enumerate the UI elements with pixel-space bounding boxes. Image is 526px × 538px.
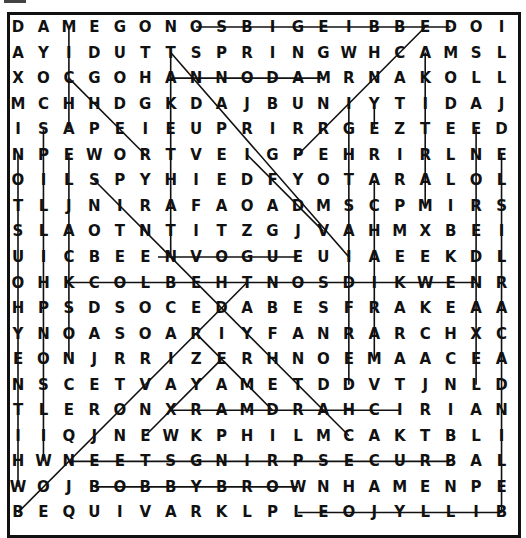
grid-letter[interactable]: Y bbox=[5, 321, 31, 347]
grid-letter[interactable]: P bbox=[209, 116, 235, 142]
grid-letter[interactable]: I bbox=[260, 14, 286, 40]
grid-letter[interactable]: N bbox=[438, 474, 464, 500]
grid-letter[interactable]: V bbox=[310, 218, 336, 244]
grid-letter[interactable]: S bbox=[310, 448, 336, 474]
grid-letter[interactable]: R bbox=[132, 193, 158, 219]
grid-letter[interactable]: Y bbox=[387, 499, 413, 525]
grid-letter[interactable]: O bbox=[107, 474, 133, 500]
grid-letter[interactable]: Q bbox=[56, 423, 82, 449]
grid-letter[interactable]: B bbox=[260, 295, 286, 321]
grid-letter[interactable]: M bbox=[438, 40, 464, 66]
grid-letter[interactable]: E bbox=[158, 116, 184, 142]
grid-letter[interactable]: R bbox=[387, 167, 413, 193]
grid-letter[interactable]: N bbox=[132, 218, 158, 244]
grid-letter[interactable]: R bbox=[107, 346, 133, 372]
grid-letter[interactable]: U bbox=[285, 91, 311, 117]
grid-letter[interactable]: L bbox=[489, 244, 515, 270]
grid-letter[interactable]: L bbox=[234, 499, 260, 525]
grid-letter[interactable]: R bbox=[234, 474, 260, 500]
grid-letter[interactable]: O bbox=[107, 397, 133, 423]
grid-letter[interactable]: T bbox=[209, 218, 235, 244]
grid-letter[interactable]: G bbox=[132, 91, 158, 117]
grid-letter[interactable]: Z bbox=[234, 218, 260, 244]
grid-letter[interactable]: E bbox=[209, 142, 235, 168]
grid-letter[interactable]: U bbox=[183, 116, 209, 142]
grid-letter[interactable]: T bbox=[5, 193, 31, 219]
grid-letter[interactable]: G bbox=[285, 14, 311, 40]
grid-letter[interactable]: R bbox=[234, 346, 260, 372]
grid-letter[interactable]: D bbox=[438, 14, 464, 40]
grid-letter[interactable]: A bbox=[361, 244, 387, 270]
grid-letter[interactable]: K bbox=[412, 65, 438, 91]
grid-letter[interactable]: S bbox=[158, 448, 184, 474]
grid-letter[interactable]: O bbox=[463, 14, 489, 40]
grid-letter[interactable]: D bbox=[81, 40, 107, 66]
grid-letter[interactable]: A bbox=[310, 397, 336, 423]
grid-letter[interactable]: J bbox=[81, 423, 107, 449]
grid-letter[interactable]: B bbox=[132, 474, 158, 500]
grid-letter[interactable]: A bbox=[412, 346, 438, 372]
grid-letter[interactable]: I bbox=[30, 423, 56, 449]
grid-letter[interactable]: I bbox=[336, 244, 362, 270]
grid-letter[interactable]: W bbox=[81, 142, 107, 168]
grid-letter[interactable]: A bbox=[285, 65, 311, 91]
grid-letter[interactable]: L bbox=[132, 270, 158, 296]
grid-letter[interactable]: O bbox=[310, 346, 336, 372]
grid-letter[interactable]: G bbox=[183, 448, 209, 474]
grid-letter[interactable]: I bbox=[489, 14, 515, 40]
grid-letter[interactable]: H bbox=[81, 91, 107, 117]
grid-letter[interactable]: A bbox=[412, 167, 438, 193]
grid-letter[interactable]: I bbox=[336, 91, 362, 117]
grid-letter[interactable]: A bbox=[158, 321, 184, 347]
grid-letter[interactable]: E bbox=[107, 244, 133, 270]
grid-letter[interactable]: A bbox=[209, 397, 235, 423]
grid-letter[interactable]: M bbox=[310, 423, 336, 449]
grid-letter[interactable]: I bbox=[5, 423, 31, 449]
grid-letter[interactable]: E bbox=[81, 448, 107, 474]
grid-letter[interactable]: E bbox=[81, 14, 107, 40]
grid-letter[interactable]: R bbox=[336, 65, 362, 91]
grid-letter[interactable]: S bbox=[463, 40, 489, 66]
grid-letter[interactable]: L bbox=[412, 499, 438, 525]
grid-letter[interactable]: V bbox=[183, 244, 209, 270]
grid-letter[interactable]: N bbox=[463, 270, 489, 296]
grid-letter[interactable]: T bbox=[107, 218, 133, 244]
grid-letter[interactable]: R bbox=[412, 397, 438, 423]
grid-letter[interactable]: L bbox=[438, 499, 464, 525]
grid-letter[interactable]: A bbox=[81, 321, 107, 347]
grid-letter[interactable]: N bbox=[260, 270, 286, 296]
grid-letter[interactable]: O bbox=[5, 167, 31, 193]
grid-letter[interactable]: G bbox=[234, 244, 260, 270]
grid-letter[interactable]: Y bbox=[183, 474, 209, 500]
grid-letter[interactable]: E bbox=[412, 474, 438, 500]
grid-letter[interactable]: O bbox=[132, 14, 158, 40]
grid-letter[interactable]: N bbox=[56, 448, 82, 474]
grid-letter[interactable]: I bbox=[260, 40, 286, 66]
grid-letter[interactable]: H bbox=[209, 270, 235, 296]
grid-letter[interactable]: S bbox=[81, 167, 107, 193]
grid-letter[interactable]: K bbox=[412, 295, 438, 321]
grid-letter[interactable]: L bbox=[489, 65, 515, 91]
grid-letter[interactable]: M bbox=[234, 397, 260, 423]
grid-letter[interactable]: B bbox=[387, 14, 413, 40]
grid-letter[interactable]: E bbox=[463, 346, 489, 372]
grid-letter[interactable]: R bbox=[183, 321, 209, 347]
grid-letter[interactable]: D bbox=[234, 167, 260, 193]
grid-letter[interactable]: P bbox=[387, 193, 413, 219]
grid-letter[interactable]: D bbox=[336, 372, 362, 398]
grid-letter[interactable]: A bbox=[361, 474, 387, 500]
grid-letter[interactable]: E bbox=[463, 116, 489, 142]
grid-letter[interactable]: R bbox=[489, 270, 515, 296]
grid-letter[interactable]: I bbox=[30, 244, 56, 270]
grid-letter[interactable]: A bbox=[56, 116, 82, 142]
grid-letter[interactable]: R bbox=[234, 40, 260, 66]
grid-letter[interactable]: E bbox=[438, 295, 464, 321]
grid-letter[interactable]: K bbox=[387, 423, 413, 449]
grid-letter[interactable]: B bbox=[438, 218, 464, 244]
grid-letter[interactable]: G bbox=[336, 116, 362, 142]
grid-letter[interactable]: I bbox=[260, 116, 286, 142]
grid-letter[interactable]: O bbox=[30, 346, 56, 372]
grid-letter[interactable]: A bbox=[285, 321, 311, 347]
grid-letter[interactable]: I bbox=[107, 193, 133, 219]
grid-letter[interactable]: H bbox=[260, 346, 286, 372]
